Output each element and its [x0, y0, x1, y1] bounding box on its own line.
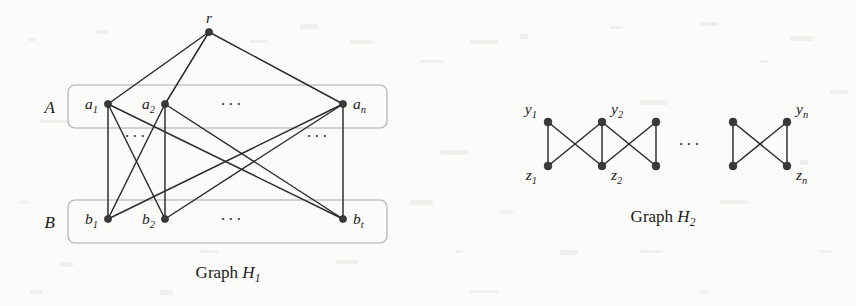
- vertex-a1: [104, 100, 111, 107]
- texture-mark: [470, 40, 498, 44]
- graph-h1: ············a1a2anb1b2btrAB: [44, 9, 387, 243]
- texture-mark: [720, 200, 748, 204]
- texture-mark: [250, 40, 268, 43]
- node-label-a2-sub: 2: [150, 104, 156, 115]
- node-label-an: an: [353, 95, 366, 115]
- vertex-y1: [544, 118, 552, 126]
- node-label-b1: b1: [85, 210, 98, 230]
- vertex-y2: [598, 118, 606, 126]
- node-label-z2: z2: [610, 166, 623, 186]
- texture-mark: [520, 34, 528, 39]
- vertex-b1: [104, 215, 111, 222]
- node-label-r: r: [206, 9, 213, 26]
- texture-mark: [800, 160, 808, 165]
- set-b-ellipsis: ···: [220, 210, 244, 229]
- texture-mark: [760, 60, 768, 63]
- caption-graph-h2: Graph H2: [631, 207, 696, 228]
- paper-texture: [20, 22, 848, 295]
- texture-mark: [640, 100, 668, 105]
- vertex-ym: [729, 118, 737, 126]
- node-label-bt: bt: [353, 210, 365, 230]
- vertex-an: [339, 100, 346, 107]
- texture-mark: [30, 290, 43, 294]
- vertex-z1: [544, 162, 552, 170]
- vertex-yn: [783, 118, 791, 126]
- h1-edge-r-a1: [108, 32, 209, 104]
- vertex-y3: [652, 118, 660, 126]
- node-label-zn-sub: n: [802, 175, 807, 186]
- node-label-a2: a2: [142, 95, 156, 115]
- h1-edge-r-a2: [165, 32, 209, 104]
- texture-mark: [96, 30, 109, 34]
- vertex-a2: [161, 100, 168, 107]
- vertex-bt: [339, 215, 346, 222]
- texture-mark: [700, 290, 708, 294]
- graph-figure: ············a1a2anb1b2btrABy1y2ynz1z2zn·…: [0, 0, 856, 306]
- texture-mark: [500, 210, 513, 214]
- texture-mark: [440, 150, 468, 155]
- texture-mark: [560, 250, 578, 255]
- texture-mark: [820, 250, 833, 253]
- node-label-y2-sub: 2: [618, 109, 624, 120]
- texture-mark: [350, 40, 373, 44]
- set-a-ellipsis: ···: [220, 95, 244, 114]
- set-a-label: A: [44, 98, 56, 117]
- node-label-b2-sub: 2: [150, 219, 156, 230]
- vertex-r: [205, 28, 212, 35]
- node-label-an-sub: n: [361, 104, 366, 115]
- set-b-label: B: [45, 213, 56, 232]
- h1-middle-ellipsis-1: ···: [124, 127, 148, 146]
- caption-graph-h2-sub: 2: [690, 216, 696, 228]
- texture-mark: [455, 250, 463, 253]
- node-label-a1: a1: [85, 95, 98, 115]
- texture-mark: [470, 290, 498, 293]
- caption-graph-h1-word: Graph: [196, 263, 243, 282]
- node-label-z1-sub: 1: [532, 175, 537, 186]
- node-label-y1: y1: [523, 100, 537, 120]
- h1-middle-ellipsis-2: ···: [306, 127, 330, 146]
- texture-mark: [20, 200, 28, 204]
- h2-edges: [548, 122, 787, 166]
- caption-graph-h1: Graph H1: [196, 263, 261, 284]
- texture-mark: [640, 250, 663, 253]
- node-label-z1: z1: [525, 166, 537, 186]
- texture-mark: [410, 200, 433, 205]
- node-label-y1-sub: 1: [532, 109, 537, 120]
- node-label-yn: yn: [794, 100, 808, 120]
- node-label-zn: zn: [795, 166, 807, 186]
- node-label-z2-sub: 2: [617, 175, 623, 186]
- texture-mark: [200, 250, 218, 253]
- texture-mark: [300, 24, 318, 29]
- vertex-b2: [161, 215, 168, 222]
- texture-mark: [420, 60, 443, 63]
- texture-mark: [700, 22, 718, 26]
- h2-ellipsis: ···: [678, 135, 702, 154]
- texture-mark: [160, 290, 173, 295]
- texture-mark: [610, 26, 623, 29]
- vertex-z3: [652, 162, 660, 170]
- texture-mark: [28, 38, 36, 41]
- texture-mark: [830, 90, 848, 94]
- texture-mark: [336, 260, 359, 264]
- graph-h2: y1y2ynz1z2zn···: [523, 100, 808, 186]
- figure-canvas: ············a1a2anb1b2btrABy1y2ynz1z2zn·…: [0, 0, 856, 306]
- texture-mark: [40, 120, 68, 123]
- node-label-y2: y2: [609, 100, 624, 120]
- caption-graph-h2-word: Graph: [631, 207, 678, 226]
- node-label-b2: b2: [142, 210, 156, 230]
- node-label-bt-sub: t: [361, 219, 365, 230]
- caption-graph-h1-sub: 1: [255, 272, 261, 284]
- node-label-yn-sub: n: [803, 109, 808, 120]
- h1-edge-r-an: [209, 32, 343, 104]
- vertex-zn: [783, 162, 791, 170]
- node-label-b1-sub: 1: [93, 219, 98, 230]
- node-label-a1-sub: 1: [93, 104, 98, 115]
- vertex-zm: [729, 162, 737, 170]
- texture-mark: [60, 262, 73, 267]
- texture-mark: [790, 36, 813, 41]
- h1-edges: [108, 32, 343, 219]
- vertex-z2: [598, 162, 606, 170]
